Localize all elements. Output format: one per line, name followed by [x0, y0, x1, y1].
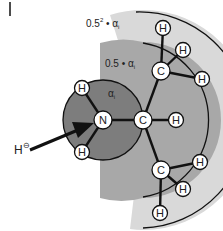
- svg-text:H: H: [196, 156, 204, 168]
- outer-shell-label: 0.52 • αi: [86, 17, 119, 30]
- svg-text:H: H: [156, 207, 164, 219]
- atom-h-top-3: H: [195, 72, 210, 87]
- atom-h-c-center: H: [169, 113, 184, 128]
- svg-text:C: C: [157, 65, 165, 77]
- atom-h-n-lower: H: [75, 145, 90, 160]
- middle-shell-label: 0.5 • αi: [105, 58, 135, 70]
- atom-h-n-upper: H: [75, 81, 90, 96]
- atom-c-center: C: [134, 111, 152, 129]
- atom-n: N: [94, 111, 112, 129]
- atom-h-top-1: H: [156, 21, 171, 36]
- svg-text:H: H: [172, 114, 180, 126]
- svg-text:H: H: [198, 73, 206, 85]
- svg-text:H: H: [78, 146, 86, 158]
- atom-c-upper: C: [152, 62, 170, 80]
- atom-h-bottom-1: H: [193, 155, 208, 170]
- atom-c-lower: C: [152, 161, 170, 179]
- svg-text:C: C: [139, 114, 147, 126]
- hydride-label: H⊖: [14, 141, 30, 157]
- svg-text:H: H: [179, 183, 187, 195]
- svg-text:H: H: [78, 82, 86, 94]
- svg-text:C: C: [157, 164, 165, 176]
- svg-text:H: H: [179, 44, 187, 56]
- atom-h-top-2: H: [176, 43, 191, 58]
- svg-text:N: N: [99, 114, 107, 126]
- polarizability-diagram: N C C C H H H H H H H H H 0.52 • αi 0.5 …: [0, 0, 223, 231]
- atom-h-bottom-3: H: [153, 206, 168, 221]
- atom-h-bottom-2: H: [176, 182, 191, 197]
- svg-text:H: H: [159, 22, 167, 34]
